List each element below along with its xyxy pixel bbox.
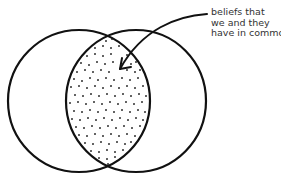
- stipple-dot: [135, 117, 137, 119]
- stipple-dot: [85, 103, 87, 105]
- stipple-dot: [78, 134, 80, 136]
- stipple-dot: [97, 79, 99, 81]
- stipple-dot: [113, 111, 115, 113]
- stipple-dot: [141, 101, 143, 103]
- stipple-dot: [86, 87, 88, 89]
- stipple-dot: [114, 151, 116, 153]
- stipple-dot: [96, 61, 98, 63]
- stipple-dot: [78, 85, 80, 87]
- stipple-dot: [126, 133, 128, 135]
- stipple-dot: [83, 127, 85, 129]
- stipple-dot: [112, 61, 114, 63]
- stipple-dot: [126, 85, 128, 87]
- stipple-dot: [75, 126, 77, 128]
- stipple-dot: [116, 141, 118, 143]
- right-circle: [66, 30, 206, 172]
- left-circle: [8, 30, 150, 172]
- stipple-dot: [106, 149, 108, 151]
- stipple-dot: [104, 63, 106, 65]
- stipple-dot: [70, 86, 72, 88]
- stipple-dot: [86, 55, 88, 57]
- stipple-dot: [94, 133, 96, 135]
- stipple-dot: [108, 143, 110, 145]
- annotation-label: beliefs that we and they have in common: [211, 7, 281, 39]
- stipple-dot: [103, 117, 105, 119]
- stipple-dot: [99, 127, 101, 129]
- stipple-dot: [98, 95, 100, 97]
- stipple-dot: [142, 85, 144, 87]
- stipple-dot: [100, 69, 102, 71]
- stipple-dot: [134, 87, 136, 89]
- stipple-dot: [134, 71, 136, 73]
- stipple-dot: [98, 151, 100, 153]
- stipple-dot: [73, 110, 75, 112]
- stipple-dot: [126, 69, 128, 71]
- stipple-dot: [110, 47, 112, 49]
- stipple-dot: [79, 119, 81, 121]
- stipple-dot: [110, 85, 112, 87]
- stipple-dot: [92, 71, 94, 73]
- stipple-dot: [134, 135, 136, 137]
- stipple-dot: [86, 135, 88, 137]
- stipple-dot: [77, 101, 79, 103]
- stipple-dot: [108, 71, 110, 73]
- stipple-dot: [100, 141, 102, 143]
- stipple-dot: [115, 127, 117, 129]
- stipple-dot: [121, 77, 123, 79]
- stipple-dot: [84, 142, 86, 144]
- stipple-dot: [114, 95, 116, 97]
- stipple-dot: [144, 111, 146, 113]
- stipple-dot: [118, 45, 120, 47]
- stipple-dot: [81, 80, 83, 82]
- stipple-dot: [139, 69, 141, 71]
- stipple-dot: [102, 55, 104, 57]
- annotation-line-3: have in common: [211, 28, 281, 39]
- stipple-dot: [145, 95, 147, 97]
- stipple-dot: [89, 77, 91, 79]
- stipple-dot: [139, 125, 141, 127]
- stipple-dot: [91, 125, 93, 127]
- stipple-dot: [127, 119, 129, 121]
- stipple-dot: [105, 40, 107, 42]
- stipple-dot: [87, 117, 89, 119]
- stipple-dot: [111, 119, 113, 121]
- stipple-dot: [110, 133, 112, 135]
- stipple-dot: [121, 109, 123, 111]
- stipple-dot: [137, 77, 139, 79]
- stipple-dot: [94, 85, 96, 87]
- stipple-dot: [117, 103, 119, 105]
- stipple-dot: [133, 103, 135, 105]
- stipple-dot: [119, 117, 121, 119]
- stipple-dot: [102, 87, 104, 89]
- stipple-dot: [130, 141, 132, 143]
- stipple-dot: [80, 62, 82, 64]
- stipple-dot: [137, 109, 139, 111]
- stipple-dot: [92, 143, 94, 145]
- stipple-dot: [74, 94, 76, 96]
- stipple-dot: [130, 95, 132, 97]
- stipple-dot: [94, 47, 96, 49]
- stipple-dot: [123, 125, 125, 127]
- stipple-dot: [107, 125, 109, 127]
- stipple-dot: [95, 119, 97, 121]
- stipple-dot: [122, 149, 124, 151]
- stipple-dot: [113, 79, 115, 81]
- stipple-dot: [125, 101, 127, 103]
- stipple-dot: [102, 135, 104, 137]
- stipple-dot: [118, 87, 120, 89]
- stipple-dot: [142, 119, 144, 121]
- stipple-dot: [71, 118, 73, 120]
- stipple-dot: [106, 93, 108, 95]
- stipple-dot: [69, 102, 71, 104]
- stipple-dot: [114, 156, 116, 158]
- stipple-dot: [102, 45, 104, 47]
- stipple-dot: [81, 111, 83, 113]
- stipple-dot: [122, 93, 124, 95]
- stipple-dot: [130, 63, 132, 65]
- stipple-dot: [93, 101, 95, 103]
- stipple-dot: [90, 150, 92, 152]
- stipple-dot: [105, 109, 107, 111]
- stipple-dot: [76, 71, 78, 73]
- stipple-dot: [106, 158, 108, 160]
- annotation-line-1: beliefs that: [211, 7, 281, 18]
